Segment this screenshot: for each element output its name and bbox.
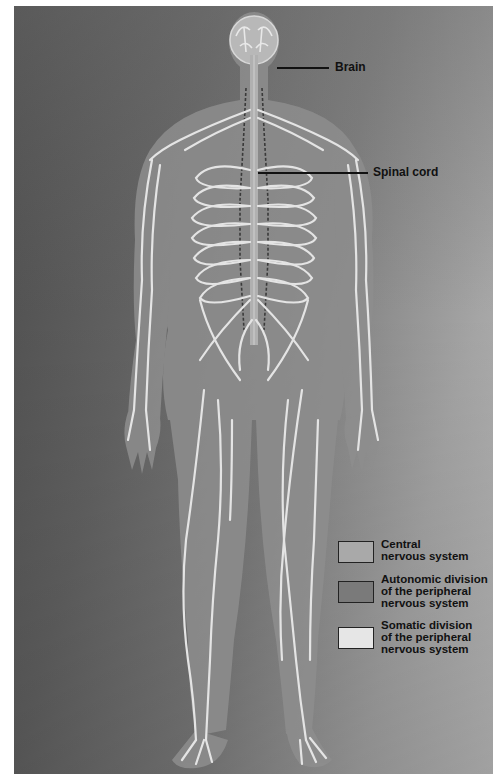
body-illustration <box>0 0 504 784</box>
legend-label: nervous system <box>381 550 469 562</box>
swatch-somatic <box>338 627 374 649</box>
swatch-central <box>338 541 374 563</box>
legend-label: Somatic division <box>381 619 472 631</box>
legend-label: nervous system <box>381 597 488 609</box>
legend-label: Autonomic division <box>381 573 488 585</box>
brain-label: Brain <box>335 60 366 74</box>
legend-item-somatic: Somatic division of the peripheral nervo… <box>338 619 498 655</box>
spinal-cord-label: Spinal cord <box>373 165 438 179</box>
legend-label: of the peripheral <box>381 631 472 643</box>
legend-item-autonomic: Autonomic division of the peripheral ner… <box>338 573 498 609</box>
brain-leader-line <box>277 67 329 69</box>
legend-label: Central <box>381 538 469 550</box>
swatch-autonomic <box>338 581 374 603</box>
spinal-cord-leader-line <box>258 172 368 174</box>
legend-label: of the peripheral <box>381 585 488 597</box>
legend-item-central: Central nervous system <box>338 538 498 563</box>
legend-label: nervous system <box>381 643 472 655</box>
legend: Central nervous system Autonomic divisio… <box>338 538 498 665</box>
